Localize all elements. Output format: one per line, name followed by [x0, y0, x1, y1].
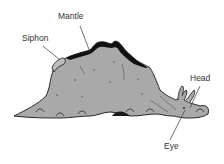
label-siphon: Siphon — [22, 34, 48, 43]
body-shape — [14, 41, 209, 118]
label-head: Head — [190, 74, 210, 83]
mantle-leader-line — [80, 26, 90, 52]
sea-hare-diagram: Mantle Siphon Head Eye — [0, 0, 224, 164]
siphon-leader-line — [43, 46, 60, 60]
label-eye: Eye — [164, 142, 179, 151]
label-mantle: Mantle — [58, 12, 84, 21]
eye-dot — [183, 107, 185, 109]
